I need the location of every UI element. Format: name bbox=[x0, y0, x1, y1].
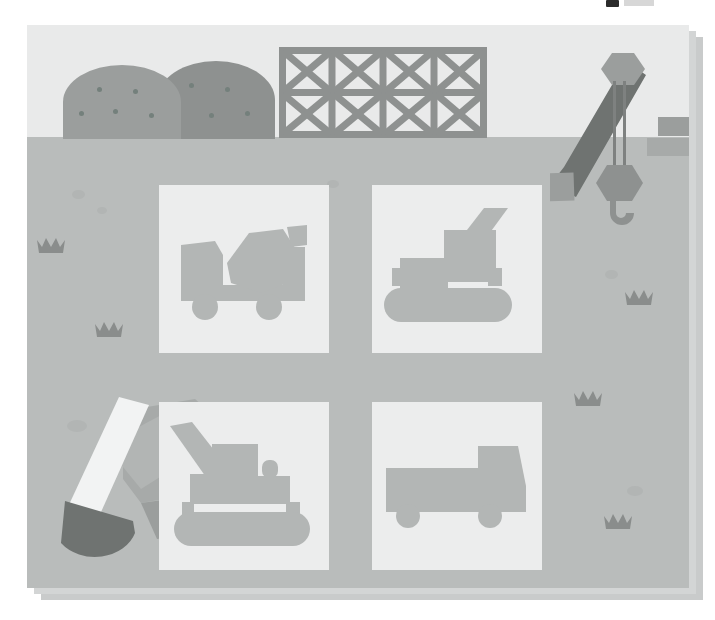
ground-speckle bbox=[72, 190, 85, 199]
gravel-pile-front bbox=[63, 65, 181, 139]
crane-cable-right bbox=[623, 81, 626, 177]
card-crawler-crane[interactable] bbox=[372, 185, 542, 353]
crane-hook-block bbox=[596, 165, 643, 201]
card-excavator[interactable] bbox=[159, 402, 329, 570]
card-cement-mixer[interactable] bbox=[159, 185, 329, 353]
ground-speckle bbox=[627, 486, 643, 496]
brick-top bbox=[658, 117, 689, 136]
ground-speckle bbox=[67, 420, 87, 432]
gravel-dot bbox=[245, 111, 250, 116]
gravel-dot bbox=[97, 87, 102, 92]
cement-mixer-truck-icon bbox=[175, 215, 313, 323]
crane-hook bbox=[610, 201, 634, 225]
crown-icon bbox=[625, 288, 653, 306]
gravel-dot bbox=[113, 109, 118, 114]
cropped-text-fragment bbox=[606, 0, 619, 7]
crown-icon bbox=[95, 320, 123, 338]
brick-bottom bbox=[647, 138, 689, 156]
gravel-dot bbox=[149, 113, 154, 118]
excavator-icon bbox=[170, 422, 318, 550]
cropped-ui-chip bbox=[624, 0, 654, 6]
crane-cable-left bbox=[613, 81, 616, 177]
ground-speckle bbox=[97, 207, 107, 214]
gravel-dot bbox=[189, 83, 194, 88]
card-dump-truck[interactable] bbox=[372, 402, 542, 570]
dump-truck-icon bbox=[386, 440, 528, 532]
scaffold-truss bbox=[279, 47, 487, 138]
gravel-dot bbox=[209, 113, 214, 118]
crown-icon bbox=[37, 236, 65, 254]
scene-stage bbox=[0, 0, 715, 620]
gravel-dot bbox=[79, 111, 84, 116]
crown-icon bbox=[604, 512, 632, 530]
crawler-crane-icon bbox=[384, 206, 530, 332]
gravel-dot bbox=[133, 89, 138, 94]
illustration-canvas bbox=[27, 25, 689, 588]
ground-speckle bbox=[605, 270, 618, 279]
vehicle-card-grid bbox=[159, 185, 556, 570]
gravel-dot bbox=[225, 87, 230, 92]
crown-icon bbox=[574, 389, 602, 407]
